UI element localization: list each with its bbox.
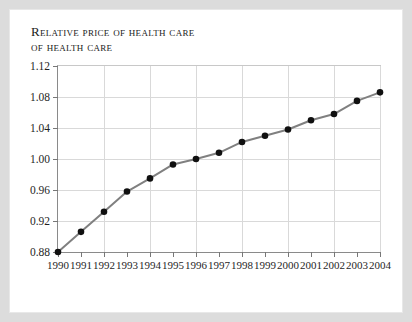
- x-axis-tick: [173, 252, 174, 257]
- y-axis-tick-label: 0.92: [30, 215, 50, 227]
- x-axis-tick-label: 2000: [277, 259, 299, 271]
- x-axis-tick: [288, 252, 289, 257]
- x-axis-tick: [219, 252, 220, 257]
- data-point-marker: [101, 208, 108, 215]
- y-axis-tick-label: 1.08: [30, 91, 50, 103]
- x-axis-tick: [380, 252, 381, 257]
- x-axis-tick-label: 1994: [139, 259, 161, 271]
- chart-title: Relative price of health care of health …: [31, 24, 195, 54]
- data-point-marker: [147, 175, 154, 182]
- x-axis-tick-label: 1996: [185, 259, 207, 271]
- x-axis-tick-label: 2002: [323, 259, 345, 271]
- x-axis-tick: [357, 252, 358, 257]
- x-axis-tick: [196, 252, 197, 257]
- data-point-marker: [55, 249, 62, 256]
- x-axis-tick: [242, 252, 243, 257]
- data-point-marker: [216, 150, 223, 157]
- x-axis-tick-label: 1998: [231, 259, 253, 271]
- y-axis-tick-label: 1.00: [30, 153, 50, 165]
- y-axis-tick-label: 1.12: [30, 60, 50, 72]
- data-point-marker: [308, 117, 315, 124]
- chart-title-line-2: of health care: [31, 39, 195, 54]
- data-point-marker: [377, 89, 384, 96]
- data-point-marker: [170, 161, 177, 168]
- x-axis-tick: [265, 252, 266, 257]
- x-axis-tick-label: 1997: [208, 259, 230, 271]
- data-point-marker: [78, 229, 85, 236]
- y-axis-tick-label: 0.96: [30, 184, 50, 196]
- figure-page: Relative price of health care of health …: [10, 10, 402, 312]
- x-axis-tick: [311, 252, 312, 257]
- x-axis-tick: [81, 252, 82, 257]
- x-axis-tick: [127, 252, 128, 257]
- y-axis-tick-label: 1.04: [30, 122, 50, 134]
- data-point-marker: [262, 132, 269, 139]
- x-axis-tick-label: 1995: [162, 259, 184, 271]
- data-point-marker: [239, 139, 246, 146]
- data-point-marker: [285, 126, 292, 133]
- x-axis-tick-label: 1999: [254, 259, 276, 271]
- x-axis-tick: [334, 252, 335, 257]
- x-axis-tick-label: 1991: [70, 259, 92, 271]
- x-axis-tick-label: 1992: [93, 259, 115, 271]
- y-axis-tick-label: 0.88: [30, 246, 50, 258]
- data-point-marker: [354, 98, 361, 105]
- data-point-marker: [193, 156, 200, 163]
- data-point-marker: [124, 188, 131, 195]
- x-axis-tick: [104, 252, 105, 257]
- x-axis-tick-label: 1993: [116, 259, 138, 271]
- chart-title-line-1: Relative price of health care: [31, 24, 195, 39]
- data-series-line: [58, 66, 380, 252]
- x-axis-tick-label: 2003: [346, 259, 368, 271]
- x-axis-tick-label: 2004: [369, 259, 391, 271]
- x-axis-tick-label: 2001: [300, 259, 322, 271]
- plot-area: 1.121.081.041.000.960.920.88 19901991199…: [57, 65, 381, 253]
- x-axis-tick-label: 1990: [47, 259, 69, 271]
- x-axis-tick: [150, 252, 151, 257]
- data-point-marker: [331, 111, 338, 118]
- chart-figure: Relative price of health care of health …: [10, 10, 402, 312]
